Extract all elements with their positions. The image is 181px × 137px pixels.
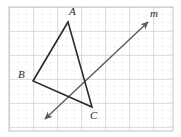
geometry-figure: A B C m — [0, 0, 181, 137]
vertex-label-a: A — [69, 6, 76, 17]
vertex-label-c: C — [90, 110, 97, 121]
vertex-label-b: B — [18, 69, 25, 80]
line-label-m: m — [150, 8, 158, 19]
